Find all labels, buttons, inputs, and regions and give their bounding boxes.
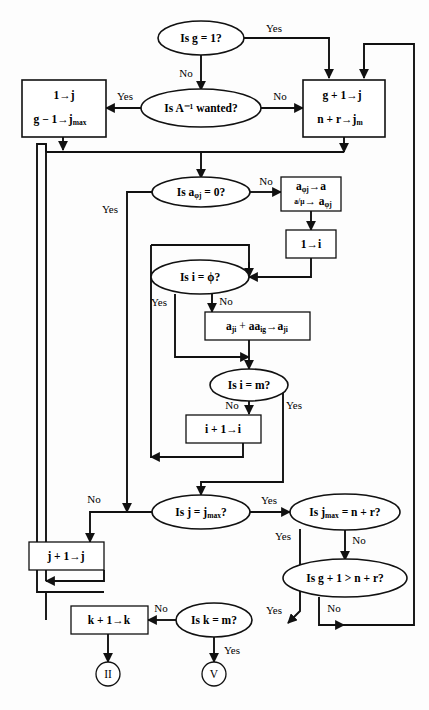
decision-is-jmax-eq-n-r-label: Is jmax = n + r? — [309, 506, 381, 520]
flowchart-page: Is g = 1? Is A⁻¹ wanted? 1→j g − 1→jmax … — [0, 0, 429, 710]
edge-label-yes-j-jmax: Yes — [261, 494, 277, 506]
flowchart-svg: Is g = 1? Is A⁻¹ wanted? 1→j g − 1→jmax … — [0, 0, 429, 710]
edge-jjmax-no — [90, 512, 152, 542]
edge-left-trunk — [37, 144, 104, 592]
decision-is-i-eq-m-label: Is i = m? — [228, 379, 271, 391]
decision-is-i-eq-phi-label: Is i = ϕ? — [180, 271, 221, 284]
decision-is-aphij-eq-0-label: Is aφj = 0? — [177, 186, 226, 200]
edge-label-no-aphij: No — [259, 175, 273, 187]
decision-is-ainv-wanted-label: Is A⁻¹ wanted? — [164, 102, 238, 114]
edge-label-yes-i-m: Yes — [286, 399, 302, 411]
process-i-inc-label: i + 1→i — [205, 423, 242, 435]
edge-label-yes-g-eq-1: Yes — [266, 22, 282, 34]
process-set-i-1-label: 1→i — [301, 238, 322, 250]
edge-label-no-ainv: No — [273, 90, 287, 102]
terminator-II-label: II — [104, 668, 112, 680]
edge-label-yes-i-phi: Yes — [151, 296, 167, 308]
edge-aphij-yes — [127, 192, 152, 512]
process-set-j-jmax-line1: 1→j — [53, 89, 74, 102]
edge-label-no-j-jmax: No — [87, 493, 101, 505]
edge-label-no-jmax-nr: No — [352, 534, 366, 546]
decision-is-g-eq-1-label: Is g = 1? — [180, 32, 222, 45]
edge-seti-to-iphi — [249, 258, 311, 277]
edge-label-no-i-m: No — [225, 399, 239, 411]
edge-label-yes-jmax-nr: Yes — [275, 530, 291, 542]
terminator-V-label: V — [210, 668, 219, 680]
process-j-inc-label: j + 1→j — [46, 550, 84, 563]
edge-label-yes-aphij: Yes — [102, 203, 118, 215]
edge-label-no-k-m: No — [154, 602, 168, 614]
edge-label-yes-k-m-down: Yes — [224, 644, 240, 656]
process-aphij-swap-line1: aφj→a — [296, 180, 326, 194]
edge-jinc-loop — [46, 570, 104, 581]
edge-g1-yes — [229, 38, 329, 78]
process-g-plus-1-line1: g + 1→j — [322, 89, 361, 102]
edge-label-yes-k-m-branch: Yes — [266, 604, 282, 616]
edge-label-no-g-eq-1: No — [179, 67, 193, 79]
decision-is-g1-gt-n-r-label: Is g + 1 > n + r? — [306, 572, 384, 585]
process-k-inc-label: k + 1→k — [88, 614, 131, 626]
edge-label-no-g1-nr: No — [327, 602, 341, 614]
decision-is-k-eq-m-label: Is k = m? — [191, 614, 237, 626]
edge-label-no-i-phi: No — [219, 295, 233, 307]
edge-label-yes-ainv: Yes — [117, 90, 133, 102]
